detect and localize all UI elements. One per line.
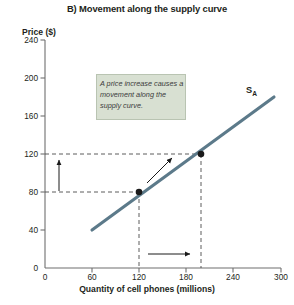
y-tick-160: 160 <box>12 111 38 121</box>
x-tick-180: 180 <box>171 272 201 282</box>
x-tick-300: 300 <box>266 272 294 282</box>
x-tick-120: 120 <box>124 272 154 282</box>
guide-lines <box>45 154 201 268</box>
y-tick-200: 200 <box>12 73 38 83</box>
x-tick-0: 0 <box>30 272 60 282</box>
supply-curve-label-subscript: A <box>252 90 257 97</box>
supply-curve-figure: B) Movement along the supply curve Price… <box>0 0 294 305</box>
x-tick-60: 60 <box>77 272 107 282</box>
y-tick-40: 40 <box>12 225 38 235</box>
y-axis-ticks <box>41 40 46 230</box>
y-tick-120: 120 <box>12 149 38 159</box>
supply-curve-label: SA <box>246 85 257 97</box>
y-tick-80: 80 <box>12 187 38 197</box>
initial-equilibrium-point <box>136 189 143 196</box>
new-equilibrium-point <box>198 151 205 158</box>
movement-callout-text: A price increase causes a movement along… <box>100 78 184 111</box>
plot-area <box>0 0 294 305</box>
x-tick-240: 240 <box>218 272 248 282</box>
y-tick-240: 240 <box>12 35 38 45</box>
